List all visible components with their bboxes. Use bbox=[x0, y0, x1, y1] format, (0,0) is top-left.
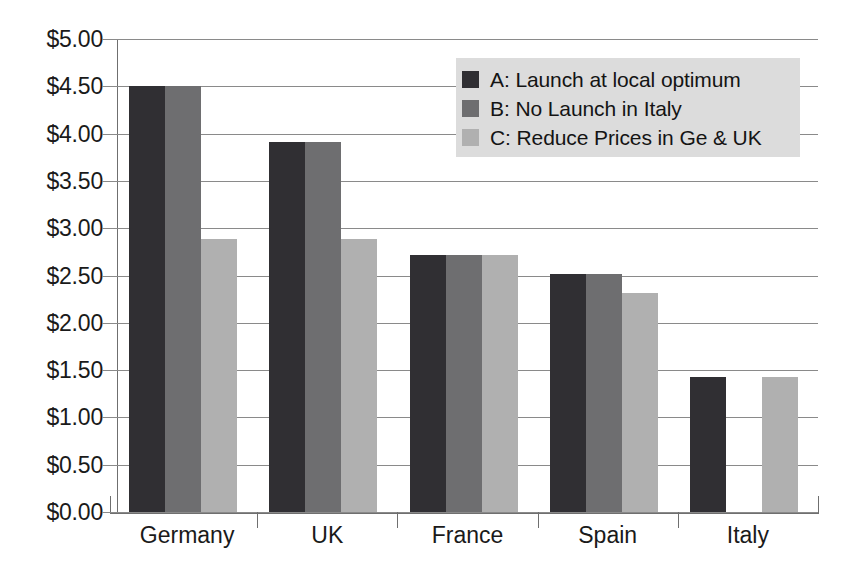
bar-B-france[interactable] bbox=[446, 255, 482, 512]
y-axis-tick-label: $4.00 bbox=[3, 122, 103, 145]
bar-A-italy[interactable] bbox=[690, 377, 726, 512]
x-axis-category-label-uk: UK bbox=[257, 524, 397, 547]
legend-label: B: No Launch in Italy bbox=[490, 98, 682, 119]
y-axis-tick-mark bbox=[102, 86, 117, 87]
x-axis-category-label-spain: Spain bbox=[538, 524, 678, 547]
x-axis-category-label-italy: Italy bbox=[678, 524, 818, 547]
legend-item-c[interactable]: C: Reduce Prices in Ge & UK bbox=[462, 123, 800, 152]
bar-C-spain[interactable] bbox=[622, 293, 658, 512]
bar-A-germany[interactable] bbox=[129, 86, 165, 512]
bar-chart: $0.00$0.50$1.00$1.50$2.00$2.50$3.00$3.50… bbox=[0, 0, 851, 583]
chart-legend: A: Launch at local optimumB: No Launch i… bbox=[456, 58, 800, 157]
legend-label: C: Reduce Prices in Ge & UK bbox=[490, 127, 762, 148]
y-axis-tick-label: $2.00 bbox=[3, 311, 103, 334]
y-axis-tick-mark bbox=[102, 512, 117, 513]
legend-swatch-icon-a bbox=[462, 71, 479, 88]
x-axis-category-label-france: France bbox=[397, 524, 537, 547]
y-axis-tick-label: $1.00 bbox=[3, 406, 103, 429]
y-axis-tick-mark bbox=[102, 323, 117, 324]
x-axis-category-label-germany: Germany bbox=[117, 524, 257, 547]
bar-B-spain[interactable] bbox=[586, 274, 622, 512]
y-axis-tick-mark bbox=[102, 134, 117, 135]
x-axis-right-cap bbox=[818, 496, 819, 514]
bar-group-uk bbox=[269, 39, 377, 512]
legend-item-b[interactable]: B: No Launch in Italy bbox=[462, 94, 800, 123]
y-axis-tick-label: $0.50 bbox=[3, 453, 103, 476]
bar-A-spain[interactable] bbox=[550, 274, 586, 512]
y-axis-tick-label: $1.50 bbox=[3, 359, 103, 382]
bar-B-uk[interactable] bbox=[305, 142, 341, 512]
y-axis-tick-label: $3.50 bbox=[3, 169, 103, 192]
bar-C-uk[interactable] bbox=[341, 239, 377, 512]
y-axis-tick-mark bbox=[102, 276, 117, 277]
legend-item-a[interactable]: A: Launch at local optimum bbox=[462, 65, 800, 94]
y-axis-tick-mark bbox=[102, 228, 117, 229]
bar-C-germany[interactable] bbox=[201, 239, 237, 512]
y-axis-tick-mark bbox=[102, 370, 117, 371]
bar-C-italy[interactable] bbox=[762, 377, 798, 512]
legend-swatch-icon-c bbox=[462, 129, 479, 146]
y-axis-tick-label: $5.00 bbox=[3, 28, 103, 51]
bar-A-uk[interactable] bbox=[269, 142, 305, 512]
y-axis-tick-label: $4.50 bbox=[3, 75, 103, 98]
y-axis-tick-labels: $0.00$0.50$1.00$1.50$2.00$2.50$3.00$3.50… bbox=[0, 0, 103, 583]
y-axis-tick-label: $0.00 bbox=[3, 501, 103, 524]
bar-group-germany bbox=[129, 39, 237, 512]
bar-B-germany[interactable] bbox=[165, 86, 201, 512]
y-axis-tick-mark bbox=[102, 181, 117, 182]
bar-A-france[interactable] bbox=[410, 255, 446, 512]
y-axis-tick-mark bbox=[102, 465, 117, 466]
y-axis-tick-label: $2.50 bbox=[3, 264, 103, 287]
y-axis-tick-label: $3.00 bbox=[3, 217, 103, 240]
legend-label: A: Launch at local optimum bbox=[490, 69, 741, 90]
legend-swatch-icon-b bbox=[462, 100, 479, 117]
bar-C-france[interactable] bbox=[482, 255, 518, 512]
y-axis-tick-mark bbox=[102, 39, 117, 40]
gridline bbox=[117, 512, 818, 513]
y-axis-tick-mark bbox=[102, 417, 117, 418]
